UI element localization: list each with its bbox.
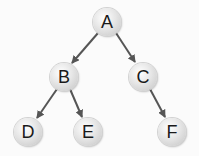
node-label: F — [167, 122, 178, 143]
node-label: D — [22, 122, 35, 143]
node-b: B — [50, 63, 78, 91]
node-label: A — [101, 12, 113, 33]
node-e: E — [74, 118, 102, 146]
node-label: E — [82, 122, 94, 143]
node-d: D — [14, 118, 42, 146]
tree-diagram: A B C D E F — [0, 0, 199, 156]
node-a: A — [93, 8, 121, 36]
edge-b-d — [37, 89, 57, 118]
node-c: C — [129, 63, 157, 91]
edge-b-e — [70, 89, 82, 117]
node-label: B — [58, 67, 70, 88]
edge-a-b — [72, 33, 98, 63]
edge-c-f — [150, 89, 165, 117]
edge-a-c — [116, 33, 135, 62]
node-f: F — [158, 118, 186, 146]
node-label: C — [137, 67, 150, 88]
